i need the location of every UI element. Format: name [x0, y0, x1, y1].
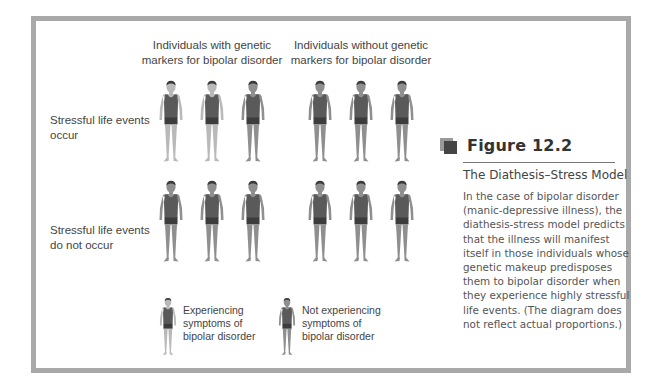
- column-header-line: markers for bipolar disorder: [276, 53, 446, 68]
- person-figure-not-experiencing: [195, 180, 229, 264]
- column-header-line: Individuals without genetic: [276, 38, 446, 53]
- person-figure-not-experiencing: [344, 180, 378, 264]
- row-label-line: Stressful life events: [50, 113, 160, 128]
- caption-line: not reflect actual proportions.): [463, 317, 623, 331]
- legend-label-experiencing: Experiencing symptoms of bipolar disorde…: [183, 304, 273, 343]
- row-label-stress-occurs: Stressful life events occur: [50, 113, 160, 143]
- column-header-without-markers: Individuals without genetic markers for …: [276, 38, 446, 68]
- figure-label: Figure 12.2: [467, 136, 572, 155]
- person-figure-not-experiencing: [303, 180, 337, 264]
- caption-line: In the case of bipolar disorder: [463, 189, 623, 203]
- person-figure-not-experiencing: [385, 80, 419, 164]
- legend-line: symptoms of: [183, 317, 273, 330]
- person-figure-experiencing: [195, 80, 229, 164]
- column-header-with-markers: Individuals with genetic markers for bip…: [127, 38, 297, 68]
- legend-line: symptoms of: [302, 317, 392, 330]
- legend-label-not-experiencing: Not experiencing symptoms of bipolar dis…: [302, 304, 392, 343]
- column-header-line: markers for bipolar disorder: [127, 53, 297, 68]
- person-figure-not-experiencing: [236, 80, 270, 164]
- person-figure-not-experiencing: [236, 180, 270, 264]
- caption-line: itself in those individuals whose: [463, 246, 623, 260]
- caption-divider: [463, 162, 615, 163]
- caption-line: them to bipolar disorder when: [463, 274, 623, 288]
- legend-line: bipolar disorder: [183, 330, 273, 343]
- column-header-line: Individuals with genetic: [127, 38, 297, 53]
- caption-line: that the illness will manifest: [463, 232, 623, 246]
- person-figure-not-experiencing: [154, 180, 188, 264]
- figure-marker-icon: [440, 138, 460, 158]
- person-figure-experiencing: [154, 80, 188, 164]
- caption-line: they experience highly stressful: [463, 288, 623, 302]
- legend-line: Experiencing: [183, 304, 273, 317]
- caption-line: diathesis-stress model predicts: [463, 217, 623, 231]
- row-label-line: occur: [50, 128, 160, 143]
- legend-person-not-experiencing-icon: [275, 296, 299, 358]
- legend-person-experiencing-icon: [156, 296, 180, 358]
- person-figure-not-experiencing: [385, 180, 419, 264]
- caption-line: (manic-depressive illness), the: [463, 203, 623, 217]
- figure-title: The Diathesis–Stress Model: [463, 168, 627, 182]
- row-label-stress-does-not-occur: Stressful life events do not occur: [50, 223, 160, 253]
- row-label-line: do not occur: [50, 238, 160, 253]
- caption-line: life events. (The diagram does: [463, 303, 623, 317]
- caption-line: genetic makeup predisposes: [463, 260, 623, 274]
- figure-marker-front-square: [444, 141, 457, 154]
- figure-caption-body: In the case of bipolar disorder (manic-d…: [463, 189, 623, 331]
- person-figure-not-experiencing: [344, 80, 378, 164]
- person-figure-not-experiencing: [303, 80, 337, 164]
- legend-line: bipolar disorder: [302, 330, 392, 343]
- legend-line: Not experiencing: [302, 304, 392, 317]
- row-label-line: Stressful life events: [50, 223, 160, 238]
